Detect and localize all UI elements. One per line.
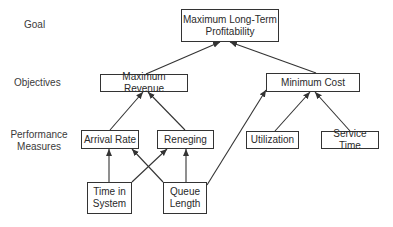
node-queue-length: Queue Length [163, 182, 207, 214]
edge-arrival-revenue [110, 92, 143, 130]
node-utilization: Utilization [246, 131, 299, 149]
node-reneging: Reneging [157, 130, 214, 149]
node-goal: Maximum Long-Term Profitability [181, 9, 279, 42]
node-service-time: Service Time [321, 131, 379, 149]
edge-cost-goal [230, 42, 316, 73]
node-time-in-system: Time in System [87, 182, 132, 214]
edge-reneging-revenue [148, 92, 185, 130]
edge-revenue-goal [146, 42, 220, 74]
node-arrival-rate: Arrival Rate [81, 130, 139, 149]
node-maximum-revenue: Maximum Revenue [100, 74, 188, 92]
edge-utilization-cost [275, 92, 310, 131]
node-minimum-cost: Minimum Cost [266, 73, 360, 92]
edge-service-cost [315, 92, 350, 131]
